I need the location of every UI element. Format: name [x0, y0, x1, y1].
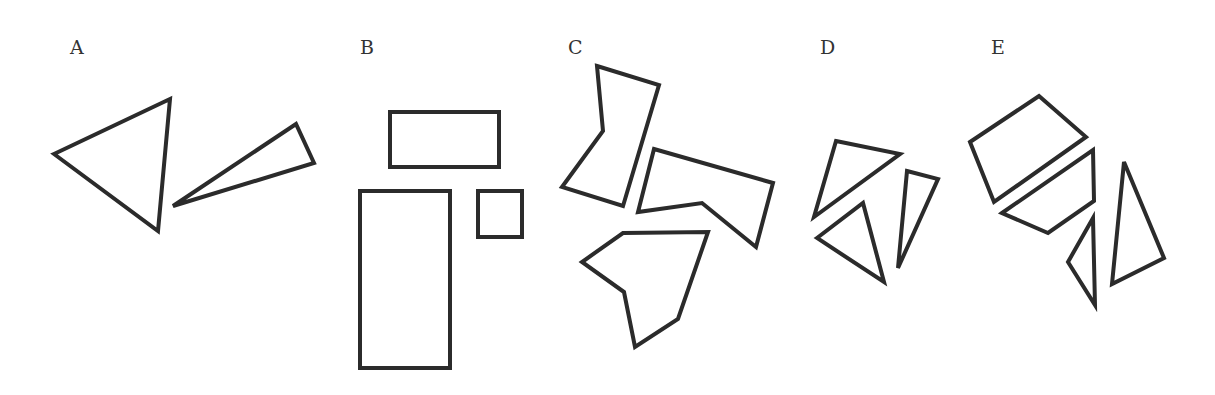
- option-e: E: [970, 36, 1164, 305]
- option-e-piece-quadrilateral-1: [970, 96, 1086, 202]
- option-b: B: [360, 36, 522, 368]
- option-d-piece-thin-triangle: [898, 171, 938, 268]
- shape-options-diagram: A B C D E: [0, 0, 1215, 395]
- option-a-piece-thin-triangle: [173, 124, 314, 206]
- option-e-label: E: [991, 36, 1005, 58]
- option-b-label: B: [360, 36, 374, 58]
- option-b-piece-tall-rectangle: [360, 191, 450, 368]
- option-b-piece-wide-rectangle: [390, 112, 499, 167]
- option-d: D: [814, 36, 938, 282]
- option-a-label: A: [69, 36, 84, 58]
- option-b-piece-square: [478, 191, 522, 237]
- option-a-piece-triangle: [54, 99, 170, 231]
- option-c-label: C: [568, 36, 583, 58]
- option-e-piece-triangle: [1112, 162, 1164, 284]
- option-d-label: D: [820, 36, 835, 58]
- option-e-piece-small-triangle: [1068, 218, 1095, 305]
- option-c-piece-hexagon: [582, 232, 708, 347]
- option-a: A: [54, 36, 314, 231]
- option-d-piece-triangle-2: [817, 203, 884, 282]
- option-c: C: [562, 36, 773, 347]
